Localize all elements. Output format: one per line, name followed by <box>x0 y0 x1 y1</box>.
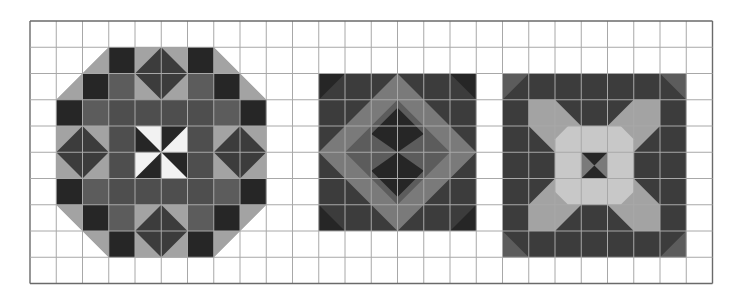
dark-square <box>214 74 240 100</box>
cross-octagon-block <box>503 74 687 258</box>
dark-square <box>188 231 214 257</box>
dark-square <box>83 205 109 231</box>
corner-triangle <box>214 47 240 73</box>
dark-square <box>109 47 135 73</box>
dark-square <box>240 179 266 205</box>
corner-triangle <box>83 47 109 73</box>
corner-triangle <box>56 205 82 231</box>
dark-square <box>56 100 82 126</box>
corner-triangle <box>240 74 266 100</box>
corner-triangle <box>83 231 109 257</box>
dark-square <box>188 47 214 73</box>
corner-triangle <box>56 74 82 100</box>
dark-square <box>214 205 240 231</box>
dark-square <box>240 100 266 126</box>
corner-triangle <box>240 205 266 231</box>
corner-triangle <box>214 231 240 257</box>
dark-square <box>56 179 82 205</box>
dark-square <box>109 231 135 257</box>
dark-square <box>83 74 109 100</box>
graph-paper-drawing <box>0 0 739 294</box>
